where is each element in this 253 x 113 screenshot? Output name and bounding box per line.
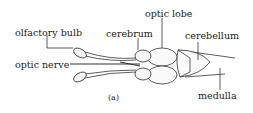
label-optic-nerve: optic nerve xyxy=(15,60,69,70)
label-olfactory-bulb: olfactory bulb xyxy=(15,28,82,38)
brain-diagram: olfactory bulb cerebrum optic lobe cereb… xyxy=(0,0,253,113)
label-cerebellum: cerebellum xyxy=(185,31,239,41)
caption: (a) xyxy=(108,94,119,102)
label-medulla: medulla xyxy=(198,91,237,101)
label-cerebrum: cerebrum xyxy=(106,29,153,39)
label-optic-lobe: optic lobe xyxy=(145,9,192,19)
